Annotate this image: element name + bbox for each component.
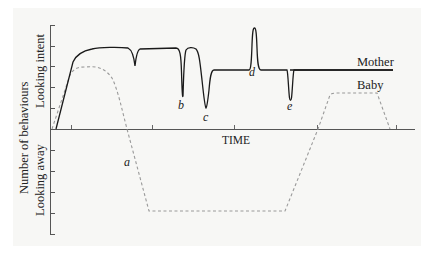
x-ticks bbox=[72, 125, 397, 129]
annotation-b: b bbox=[178, 98, 184, 112]
x-axis-label: TIME bbox=[222, 134, 250, 146]
annotation-d: d bbox=[249, 65, 256, 79]
baby-curve bbox=[52, 67, 390, 211]
legend-baby: Baby bbox=[357, 78, 384, 92]
y-upper-label: Looking intent bbox=[33, 34, 47, 108]
y-lower-label: Looking away bbox=[33, 143, 47, 216]
annotation-a: a bbox=[124, 155, 130, 169]
annotation-e: e bbox=[287, 99, 293, 113]
mother-curve bbox=[56, 28, 393, 129]
annotation-c: c bbox=[203, 110, 209, 124]
y-axis-label: Number of behaviours bbox=[17, 81, 31, 194]
legend-mother: Mother bbox=[357, 55, 395, 69]
mother-baby-gaze-diagram: b c d e a Mother Baby TIME Number of beh… bbox=[0, 0, 434, 253]
